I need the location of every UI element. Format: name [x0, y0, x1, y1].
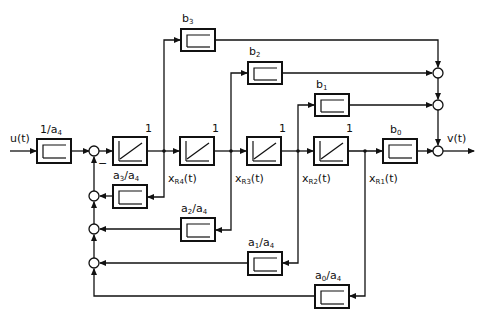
input-summing-junction [89, 146, 99, 156]
gain-b0-block: b0 [383, 123, 417, 163]
svg-text:b3: b3 [182, 12, 193, 26]
integrator-4: 1 [113, 122, 152, 165]
integrator-2: 1 [247, 122, 286, 165]
input-label: u(t) [10, 132, 30, 145]
gain-b1-block: b1 [315, 78, 349, 116]
state-xr1: xR1(t) [369, 172, 398, 186]
summing-junction-b2 [433, 68, 443, 78]
integrator-1: 1 [314, 122, 353, 165]
state-xr2: xR2(t) [302, 172, 331, 186]
svg-text:b0: b0 [390, 123, 401, 137]
minus-sign: − [98, 157, 107, 170]
svg-text:a0/a4: a0/a4 [315, 269, 342, 283]
summing-junction-b1 [433, 100, 443, 110]
gain-b2-block: b2 [248, 45, 282, 84]
state-xr4: xR4(t) [168, 172, 197, 186]
svg-text:1: 1 [346, 122, 353, 135]
svg-text:1: 1 [279, 122, 286, 135]
feedback-a0-block: a0/a4 [315, 269, 349, 308]
svg-text:1: 1 [145, 122, 152, 135]
svg-text:a2/a4: a2/a4 [181, 202, 208, 216]
svg-text:b2: b2 [249, 45, 260, 59]
gain-b3-block: b3 [181, 12, 215, 51]
svg-text:b1: b1 [316, 78, 327, 92]
input-gain-block: 1/a4 [37, 123, 71, 163]
output-label: v(t) [447, 132, 466, 145]
feedback-a2-block: a2/a4 [181, 202, 215, 241]
feedback-sum-a2 [89, 224, 99, 234]
feedback-sum-a3 [89, 191, 99, 201]
feedback-a3-block: a3/a4 [113, 169, 147, 208]
input-signal: u(t) [10, 132, 36, 151]
feedback-a1-block: a1/a4 [248, 236, 282, 275]
block-diagram: u(t) 1/a4 − 1 1 1 1 [0, 0, 484, 317]
svg-text:1: 1 [212, 122, 219, 135]
svg-text:1/a4: 1/a4 [40, 123, 62, 137]
svg-text:a1/a4: a1/a4 [248, 236, 275, 250]
integrator-3: 1 [180, 122, 219, 165]
feedback-sum-a1 [89, 258, 99, 268]
state-xr3: xR3(t) [235, 172, 264, 186]
svg-text:a3/a4: a3/a4 [113, 169, 140, 183]
output-summing-junction [433, 146, 443, 156]
